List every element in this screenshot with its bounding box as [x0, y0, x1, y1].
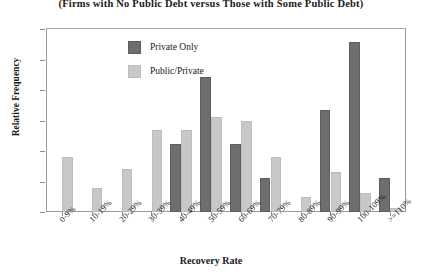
bar-private-only: [320, 110, 331, 212]
bar-group: [226, 29, 256, 212]
y-axis-tick-mark: [40, 182, 45, 183]
legend: Private Only Public/Private: [128, 38, 204, 86]
bar-private-only: [200, 77, 211, 212]
bar-private-only: [170, 144, 181, 212]
legend-swatch-private-only: [128, 41, 141, 54]
x-axis-title: Recovery Rate: [0, 255, 422, 266]
bar-group: [286, 29, 316, 212]
legend-item-public-private: Public/Private: [128, 62, 204, 80]
bar-group: [345, 29, 375, 212]
y-axis-tick-mark: [40, 212, 45, 213]
bar-public-private: [152, 130, 163, 212]
recovery-rate-bar-chart: (Firms with No Public Debt versus Those …: [0, 0, 422, 274]
legend-label-private-only: Private Only: [150, 42, 198, 52]
bar-group: [47, 29, 77, 212]
y-axis-tick-mark: [40, 60, 45, 61]
bar-group: [77, 29, 107, 212]
bar-private-only: [230, 144, 241, 212]
legend-label-public-private: Public/Private: [150, 66, 204, 76]
bars-layer: [47, 29, 405, 212]
bar-private-only: [260, 178, 271, 212]
y-axis-tick-mark: [40, 151, 45, 152]
y-axis-tick-mark: [40, 29, 45, 30]
y-axis-title: Relative Frequency: [11, 27, 21, 167]
bar-public-private: [181, 130, 192, 212]
chart-title: (Firms with No Public Debt versus Those …: [0, 0, 422, 9]
y-axis-tick-mark: [40, 121, 45, 122]
bar-group: [375, 29, 405, 212]
y-axis-tick-mark: [40, 90, 45, 91]
bar-group: [316, 29, 346, 212]
bar-group: [256, 29, 286, 212]
legend-swatch-public-private: [128, 65, 141, 78]
bar-public-private: [211, 117, 222, 212]
legend-item-private-only: Private Only: [128, 38, 204, 56]
bar-public-private: [241, 121, 252, 213]
bar-private-only: [349, 42, 360, 212]
